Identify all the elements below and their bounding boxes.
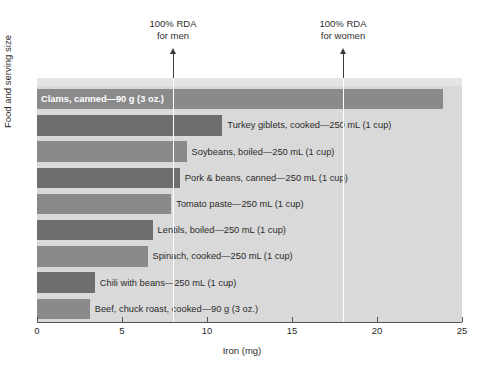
- bar-row: Turkey giblets, cooked—250 mL (1 cup): [37, 112, 462, 138]
- plot-area: Clams, canned—90 g (3 oz.)Turkey giblets…: [37, 78, 462, 322]
- bar-label: Clams, canned—90 g (3 oz.): [41, 94, 164, 105]
- bar: [37, 168, 180, 188]
- x-tick-label: 0: [34, 325, 39, 336]
- bar: [37, 141, 187, 161]
- x-axis-line: [37, 322, 462, 323]
- bar-label: Soybeans, boiled—250 mL (1 cup): [192, 146, 335, 157]
- rda-guide-line: [173, 78, 174, 322]
- iron-content-bar-chart: 100% RDAfor men100% RDAfor women Clams, …: [0, 0, 484, 380]
- bar-label: Lentils, boiled—250 mL (1 cup): [158, 225, 286, 236]
- bar: [37, 299, 90, 319]
- x-tick-label: 25: [457, 325, 468, 336]
- bar-row: Pork & beans, canned—250 mL (1 cup): [37, 165, 462, 191]
- rda-annotation-text: 100% RDAfor men: [150, 18, 197, 41]
- bar-row: Soybeans, boiled—250 mL (1 cup): [37, 138, 462, 164]
- rda-annotation-line2: for women: [320, 30, 367, 42]
- bar-row: Clams, canned—90 g (3 oz.): [37, 86, 462, 112]
- bar-label: Pork & beans, canned—250 mL (1 cup): [185, 172, 348, 183]
- x-axis-left-cap: [37, 317, 38, 322]
- bar: [37, 115, 222, 135]
- x-tick: [122, 317, 123, 322]
- bar-row: Tomato paste—250 mL (1 cup): [37, 191, 462, 217]
- rda-annotation-line1: 100% RDA: [320, 18, 367, 29]
- x-tick-label: 10: [202, 325, 213, 336]
- bar-label: Chili with beans—250 mL (1 cup): [100, 277, 237, 288]
- x-axis-title: Iron (mg): [0, 345, 484, 356]
- rda-annotation-line1: 100% RDA: [150, 18, 197, 29]
- y-axis-title: Food and serving size: [2, 35, 13, 128]
- bar: [37, 194, 171, 214]
- bar: [37, 272, 95, 292]
- bar-row: Chili with beans—250 mL (1 cup): [37, 270, 462, 296]
- bar: [37, 220, 153, 240]
- x-tick-label: 15: [287, 325, 298, 336]
- x-axis-right-cap: [462, 317, 463, 322]
- x-tick: [207, 317, 208, 322]
- bar-label: Tomato paste—250 mL (1 cup): [176, 198, 303, 209]
- rda-arrow-shaft: [173, 54, 174, 78]
- x-tick: [377, 317, 378, 322]
- x-tick-label: 20: [372, 325, 383, 336]
- plot-top-strip: [37, 78, 462, 86]
- bar-row: Beef, chuck roast, cooked—90 g (3 oz.): [37, 296, 462, 322]
- rda-arrow-shaft: [343, 54, 344, 78]
- rda-annotation-text: 100% RDAfor women: [320, 18, 367, 41]
- x-tick-label: 5: [119, 325, 124, 336]
- rda-annotation-line2: for men: [150, 30, 197, 42]
- rda-guide-line: [343, 78, 344, 322]
- bar-label: Turkey giblets, cooked—250 mL (1 cup): [227, 120, 391, 131]
- bar-row: Spinach, cooked—250 mL (1 cup): [37, 243, 462, 269]
- bar: [37, 246, 148, 266]
- x-tick: [292, 317, 293, 322]
- bar-row: Lentils, boiled—250 mL (1 cup): [37, 217, 462, 243]
- bar-label: Beef, chuck roast, cooked—90 g (3 oz.): [95, 303, 258, 314]
